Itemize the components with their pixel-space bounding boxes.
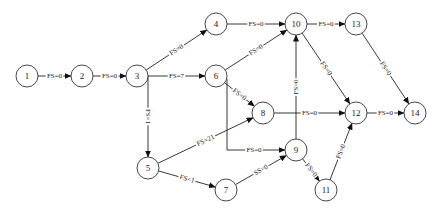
node-4: 4 [205, 13, 227, 35]
edge-8-12: FS=0 [274, 109, 345, 117]
node-7: 7 [215, 179, 237, 201]
edge-10-13: FS=0 [307, 20, 345, 28]
node-12: 12 [345, 102, 367, 124]
node-13: 13 [345, 13, 367, 35]
edge-13-14: FS=0 [362, 33, 409, 104]
node-3: 3 [126, 65, 148, 87]
node-label: 6 [214, 71, 219, 81]
node-label: 4 [214, 19, 219, 29]
edge-7-9: SS=0 [236, 156, 287, 185]
edge-4-10: FS=0 [227, 20, 285, 28]
edge-2-3: FS=0 [93, 72, 126, 80]
node-8: 8 [252, 102, 274, 124]
node-10: 10 [285, 13, 307, 35]
node-11: 11 [315, 179, 337, 201]
edge-label: FS=0 [378, 109, 394, 117]
edge-3-4: FS=0 [146, 30, 207, 70]
edge-5-8: FS=21 [158, 118, 253, 164]
network-diagram: FS=0FS=0FS=0FS=7FS=1FS=0FS=0FS=0FS=0FS=2… [0, 0, 439, 214]
edge-label: FS=7 [169, 72, 185, 80]
node-label: 14 [411, 108, 421, 118]
edge-label: FS=0 [292, 79, 300, 95]
edge-9-11: FS=0 [303, 159, 320, 181]
node-1: 1 [16, 65, 38, 87]
edge-10-12: FS=0 [302, 33, 350, 104]
edge-label: FS=1 [179, 173, 196, 185]
edge-6-10: FS=0 [225, 30, 287, 70]
node-6: 6 [205, 65, 227, 87]
node-14: 14 [404, 102, 426, 124]
edge-label: FS=0 [47, 72, 63, 80]
edge-label: FS=0 [246, 146, 262, 154]
edge-label: FS=0 [302, 109, 318, 117]
edge-3-5: FS=1 [144, 76, 152, 157]
node-label: 9 [294, 145, 299, 155]
node-9: 9 [285, 139, 307, 161]
edge-label: FS=1 [144, 109, 152, 125]
edge-12-14: FS=0 [367, 109, 404, 117]
edge-label: FS=0 [248, 20, 264, 28]
edge-9-10: FS=0 [292, 35, 300, 139]
node-label: 3 [135, 71, 140, 81]
edge-3-6: FS=7 [148, 72, 205, 80]
node-label: 5 [146, 163, 151, 173]
edge-1-2: FS=0 [38, 72, 71, 80]
nodes: 1234567891011121314 [16, 13, 426, 201]
node-label: 7 [224, 185, 229, 195]
edge-label: FS=0 [318, 20, 334, 28]
node-label: 2 [80, 71, 85, 81]
node-label: 8 [261, 108, 266, 118]
edge-11-12: FS=0 [330, 123, 352, 180]
node-label: 13 [352, 19, 362, 29]
edge-5-7: FS=1 [159, 171, 216, 187]
node-2: 2 [71, 65, 93, 87]
node-5: 5 [137, 157, 159, 179]
node-label: 11 [322, 185, 331, 195]
node-label: 1 [25, 71, 30, 81]
edge-6-8: FS=0 [225, 83, 255, 106]
edge-label: FS=21 [195, 133, 216, 149]
edge-label: FS=0 [102, 72, 118, 80]
node-label: 12 [352, 108, 361, 118]
node-label: 10 [292, 19, 302, 29]
